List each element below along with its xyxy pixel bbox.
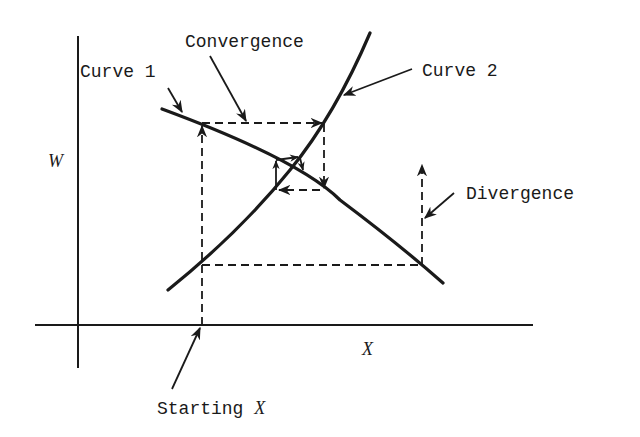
curve-1 — [162, 109, 443, 283]
convergence-label: Convergence — [185, 33, 304, 51]
convergence-path — [202, 123, 324, 325]
curve-2-label: Curve 2 — [422, 62, 498, 80]
label-pointers — [168, 56, 454, 389]
curve1-pointer-arrow — [168, 88, 182, 112]
divergence-label: Divergence — [466, 185, 574, 203]
starting-x-prefix: Starting — [157, 399, 254, 419]
convergence-pointer-arrow — [210, 56, 246, 121]
axes — [35, 36, 533, 368]
starting-x-label: Starting X — [157, 399, 265, 418]
starting-x-pointer-arrow — [172, 328, 200, 389]
curve-2 — [168, 33, 370, 290]
curve2-pointer-arrow — [344, 69, 412, 95]
divergence-path — [202, 165, 422, 265]
x-axis-label: X — [362, 340, 373, 358]
curve-1-label: Curve 1 — [80, 63, 156, 81]
divergence-pointer-arrow — [425, 193, 454, 218]
y-axis-label: W — [48, 152, 63, 170]
curves — [162, 33, 443, 290]
starting-x-variable: X — [254, 398, 265, 418]
